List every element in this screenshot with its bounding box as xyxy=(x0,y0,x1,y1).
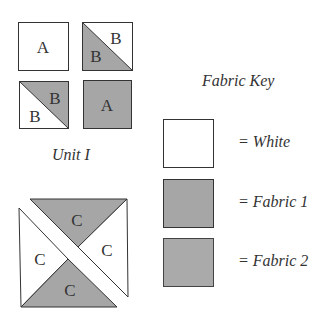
unit1-title: Unit I xyxy=(52,146,90,164)
label-b-lower: B xyxy=(90,47,101,66)
label-c-bottom: C xyxy=(64,281,75,300)
label-c-top: C xyxy=(71,211,82,230)
label-b-upper: B xyxy=(49,89,60,108)
key-label-white: = White xyxy=(238,133,290,151)
unit1-square-b-top-right: B B xyxy=(83,23,133,71)
label-c-right: C xyxy=(101,241,112,260)
unit1-square-a-gray: A xyxy=(84,81,132,129)
label-b-upper: B xyxy=(110,29,121,48)
key-swatch-white xyxy=(164,120,214,168)
label-c-left: C xyxy=(34,250,45,269)
unit1-square-a-white: A xyxy=(19,23,69,71)
fabric-key-title: Fabric Key xyxy=(202,72,274,90)
quilt-diagram: A B B B B A C C C C xyxy=(0,0,335,318)
key-swatch-fabric1 xyxy=(164,180,214,228)
label-b-lower: B xyxy=(29,107,40,126)
label-a: A xyxy=(37,38,50,57)
key-label-fabric1: = Fabric 1 xyxy=(238,193,308,211)
key-swatch-fabric2 xyxy=(164,239,214,287)
key-label-fabric2: = Fabric 2 xyxy=(238,252,308,270)
unit1-square-b-bottom-left: B B xyxy=(20,82,69,129)
label-a: A xyxy=(101,96,114,115)
